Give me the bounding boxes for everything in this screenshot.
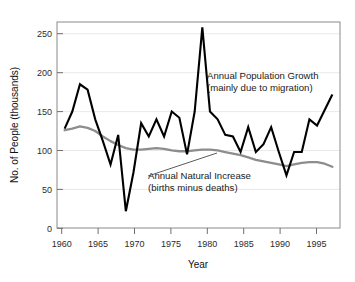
plot-background	[57, 22, 340, 228]
y-tick-label: 200	[37, 68, 52, 78]
annotation-line-1: Annual Natural Increase	[148, 170, 251, 181]
x-tick-label: 1960	[52, 239, 72, 249]
y-tick-label: 150	[37, 107, 52, 117]
x-tick-label: 1970	[124, 239, 144, 249]
y-tick-label: 100	[37, 146, 52, 156]
annotation-annual-population-growth: Annual Population Growth (mainly due to …	[207, 70, 318, 93]
x-tick-label: 1985	[234, 239, 254, 249]
x-tick-label: 1990	[270, 239, 290, 249]
x-tick-label: 1995	[306, 239, 326, 249]
annotation-annual-natural-increase: Annual Natural Increase (births minus de…	[148, 170, 251, 193]
x-tick-label: 1965	[88, 239, 108, 249]
x-tick-label: 1980	[197, 239, 217, 249]
population-growth-line-chart: 250 200 150 100 50 0 1960 1965 1970 1975…	[0, 0, 355, 282]
x-tick-labels: 1960 1965 1970 1975 1980 1985 1990 1995	[52, 239, 327, 249]
x-axis-ticks	[62, 228, 317, 234]
x-axis-title: Year	[188, 259, 209, 270]
y-tick-labels: 250 200 150 100 50 0	[37, 29, 52, 234]
y-axis-title: No. of People (thousands)	[9, 67, 20, 183]
y-tick-label: 0	[47, 224, 52, 234]
y-tick-label: 50	[42, 185, 52, 195]
y-tick-label: 250	[37, 29, 52, 39]
x-tick-label: 1975	[161, 239, 181, 249]
annotation-line-2: (births minus deaths)	[148, 182, 238, 193]
annotation-line-1: Annual Population Growth	[207, 70, 318, 81]
chart-figure: 250 200 150 100 50 0 1960 1965 1970 1975…	[0, 0, 355, 282]
annotation-line-2: (mainly due to migration)	[207, 82, 313, 93]
